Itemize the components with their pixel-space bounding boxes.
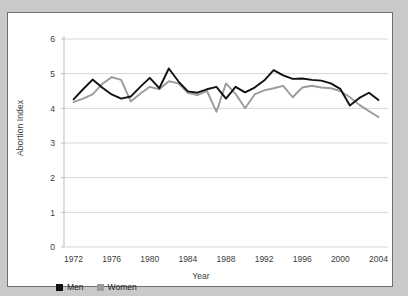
legend-label-women: Women: [108, 283, 137, 292]
chart-legend: Men Women: [56, 283, 137, 292]
women-swatch: [97, 284, 104, 291]
gridlines: [64, 39, 388, 247]
svg-text:1984: 1984: [178, 254, 197, 264]
svg-text:0: 0: [50, 242, 55, 252]
svg-text:2000: 2000: [331, 254, 350, 264]
legend-item-men: Men: [56, 283, 84, 292]
svg-text:1: 1: [50, 208, 55, 218]
svg-text:1992: 1992: [255, 254, 274, 264]
men-swatch: [56, 284, 63, 291]
chart-panel: 0123456 19721976198019841988199219962000…: [7, 12, 393, 287]
y-axis-title: Abortion Index: [15, 88, 25, 168]
line-chart-plot: 0123456 19721976198019841988199219962000…: [8, 13, 392, 286]
svg-text:3: 3: [50, 138, 55, 148]
chart-figure: 0123456 19721976198019841988199219962000…: [0, 0, 408, 296]
svg-text:2004: 2004: [369, 254, 388, 264]
y-axis-tick-labels: 0123456: [50, 34, 55, 252]
svg-text:1988: 1988: [217, 254, 236, 264]
x-axis-tick-labels: 197219761980198419881992199620002004: [64, 254, 388, 264]
data-series-lines: [74, 68, 379, 117]
svg-text:2: 2: [50, 173, 55, 183]
svg-text:1980: 1980: [140, 254, 159, 264]
svg-text:1972: 1972: [64, 254, 83, 264]
svg-text:6: 6: [50, 34, 55, 44]
y-axis-line: [61, 36, 64, 247]
legend-label-men: Men: [67, 283, 84, 292]
svg-text:4: 4: [50, 104, 55, 114]
svg-text:5: 5: [50, 69, 55, 79]
svg-text:1976: 1976: [102, 254, 121, 264]
legend-item-women: Women: [97, 283, 137, 292]
svg-text:1996: 1996: [293, 254, 312, 264]
x-axis-title: Year: [8, 271, 393, 281]
